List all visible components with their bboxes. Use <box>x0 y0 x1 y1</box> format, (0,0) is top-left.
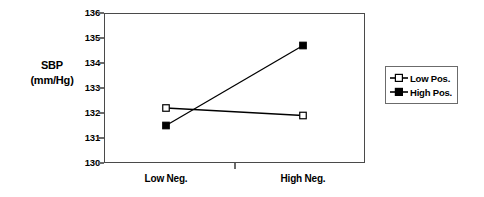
plot-series-layer <box>104 13 365 163</box>
chart-figure: SBP (mm/Hg) 136135134133132131130 Low Ne… <box>0 0 484 197</box>
data-series <box>163 105 307 119</box>
legend-item: Low Pos. <box>389 71 452 85</box>
chart-legend: Low Pos.High Pos. <box>385 66 458 104</box>
data-point-marker <box>300 112 307 119</box>
series-line <box>166 108 303 116</box>
x-axis-tick-label: High Neg. <box>258 173 348 184</box>
legend-item-label: High Pos. <box>410 87 452 98</box>
legend-item: High Pos. <box>389 85 452 99</box>
data-point-marker <box>163 122 170 129</box>
data-point-marker <box>300 42 307 49</box>
legend-item-label: Low Pos. <box>410 73 450 84</box>
open-square-marker-icon <box>389 72 409 84</box>
data-point-marker <box>163 105 170 112</box>
data-series <box>163 42 307 129</box>
filled-square-marker-icon <box>389 86 409 98</box>
x-axis-tick-label: Low Neg. <box>121 173 211 184</box>
series-line <box>166 46 303 126</box>
